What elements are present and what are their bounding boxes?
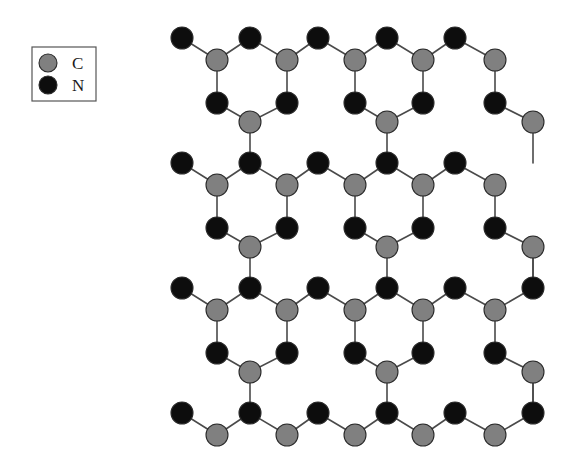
atom-nitrogen (412, 217, 434, 239)
carbon-nitride-structure-figure: C N (0, 0, 578, 454)
atom-nitrogen (171, 402, 193, 424)
atom-nitrogen (206, 342, 228, 364)
atom-nitrogen (376, 402, 398, 424)
atom-carbon (206, 49, 228, 71)
atom-nitrogen (206, 217, 228, 239)
atom-carbon (276, 424, 298, 446)
atom-nitrogen (307, 152, 329, 174)
atom-carbon (239, 111, 261, 133)
atom-carbon (412, 299, 434, 321)
atom-carbon (412, 49, 434, 71)
atom-carbon (376, 361, 398, 383)
atom-nitrogen (344, 92, 366, 114)
atom-nitrogen (376, 27, 398, 49)
atom-carbon (522, 111, 544, 133)
atom-carbon (376, 236, 398, 258)
atom-nitrogen (376, 277, 398, 299)
atom-nitrogen (444, 27, 466, 49)
atom-carbon (206, 174, 228, 196)
atom-carbon (484, 49, 506, 71)
atom-carbon (276, 299, 298, 321)
atom-carbon (276, 174, 298, 196)
atom-carbon (239, 361, 261, 383)
atom-carbon (484, 174, 506, 196)
atom-nitrogen (484, 92, 506, 114)
atom-nitrogen (444, 152, 466, 174)
atom-carbon (206, 424, 228, 446)
atom-nitrogen (307, 27, 329, 49)
atom-nitrogen (171, 277, 193, 299)
atom-nitrogen (522, 402, 544, 424)
atom-nitrogen (344, 342, 366, 364)
atom-carbon (344, 49, 366, 71)
atom-carbon (344, 299, 366, 321)
atom-nitrogen (171, 152, 193, 174)
atom-nitrogen (412, 342, 434, 364)
legend-marker-c (39, 54, 57, 72)
atom-carbon (344, 174, 366, 196)
atom-nitrogen (276, 217, 298, 239)
atom-nitrogen (276, 342, 298, 364)
atom-nitrogen (307, 277, 329, 299)
atom-nitrogen (344, 217, 366, 239)
atom-nitrogen (484, 217, 506, 239)
element-legend: C N (32, 47, 96, 101)
atom-carbon (522, 361, 544, 383)
legend-label-c: C (72, 54, 83, 73)
atom-nitrogen (522, 277, 544, 299)
atom-nitrogen (239, 152, 261, 174)
atom-carbon (276, 49, 298, 71)
atom-nitrogen (444, 402, 466, 424)
atom-nitrogen (171, 27, 193, 49)
atom-nitrogen (239, 27, 261, 49)
atom-carbon (376, 111, 398, 133)
atom-carbon (412, 424, 434, 446)
atom-nitrogen (276, 92, 298, 114)
atom-nitrogen (376, 152, 398, 174)
atom-carbon (206, 299, 228, 321)
legend-label-n: N (72, 76, 84, 95)
atom-carbon (344, 424, 366, 446)
atom-carbon (412, 174, 434, 196)
legend-marker-n (39, 76, 57, 94)
atom-nitrogen (484, 342, 506, 364)
atom-nitrogen (239, 277, 261, 299)
atom-nitrogen (307, 402, 329, 424)
atom-carbon (239, 236, 261, 258)
atom-nitrogen (206, 92, 228, 114)
atom-carbon (484, 299, 506, 321)
atom-nitrogen (444, 277, 466, 299)
legend-box (32, 47, 96, 101)
atom-carbon (522, 236, 544, 258)
atom-nitrogen (412, 92, 434, 114)
atom-nitrogen (239, 402, 261, 424)
atom-carbon (484, 424, 506, 446)
